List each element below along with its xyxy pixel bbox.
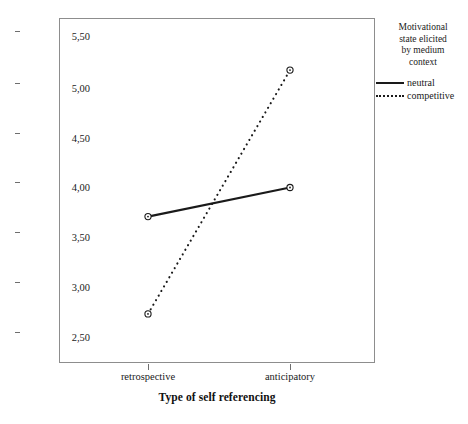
legend-item-neutral[interactable]: neutral bbox=[380, 76, 468, 89]
y-tick-label: 5,00 bbox=[20, 83, 90, 94]
y-tick-text: 3,50 bbox=[72, 232, 90, 243]
legend-label: neutral bbox=[406, 77, 435, 88]
y-tick-mark bbox=[15, 332, 20, 333]
x-axis-title: Type of self referencing bbox=[59, 391, 375, 403]
legend-label: competitive bbox=[406, 90, 454, 101]
y-tick-text: 5,50 bbox=[72, 31, 90, 42]
y-tick-mark bbox=[15, 282, 20, 283]
y-tick-label: 4,50 bbox=[20, 133, 90, 144]
y-tick-text: 3,00 bbox=[72, 282, 90, 293]
legend-line-dotted-icon bbox=[380, 91, 406, 101]
interaction-plot-figure: Estimated Marginal Means - Attitude towa… bbox=[0, 0, 468, 424]
legend: Motivational state elicited by medium co… bbox=[380, 22, 468, 102]
y-tick-label: 5,50 bbox=[20, 31, 90, 42]
y-tick-label: 4,00 bbox=[20, 182, 90, 193]
y-tick-label: 2,50 bbox=[20, 332, 90, 343]
y-tick-mark bbox=[15, 83, 20, 84]
legend-title: Motivational state elicited by medium co… bbox=[380, 22, 466, 68]
legend-entries: neutral competitive bbox=[380, 76, 468, 102]
y-tick-mark bbox=[15, 182, 20, 183]
x-tick-label-anticipatory: anticipatory bbox=[210, 371, 370, 382]
scan-artifact bbox=[24, 413, 444, 421]
plot-area bbox=[59, 18, 375, 363]
legend-title-line: Motivational bbox=[380, 22, 466, 34]
y-tick-text: 4,00 bbox=[72, 182, 90, 193]
legend-title-line: state elicited bbox=[380, 34, 466, 46]
x-tick-mark bbox=[290, 364, 291, 370]
y-tick-mark bbox=[15, 31, 20, 32]
y-tick-text: 4,50 bbox=[72, 133, 90, 144]
y-tick-mark bbox=[15, 133, 20, 134]
y-tick-label: 3,00 bbox=[20, 282, 90, 293]
x-tick-label-retrospective: retrospective bbox=[68, 371, 228, 382]
legend-line-solid-icon bbox=[380, 78, 406, 88]
legend-title-line: context bbox=[380, 57, 466, 69]
x-tick-mark bbox=[148, 364, 149, 370]
y-tick-text: 2,50 bbox=[72, 332, 90, 343]
legend-title-line: by medium bbox=[380, 45, 466, 57]
y-tick-text: 5,00 bbox=[72, 83, 90, 94]
legend-item-competitive[interactable]: competitive bbox=[380, 89, 468, 102]
y-tick-mark bbox=[15, 232, 20, 233]
y-tick-label: 3,50 bbox=[20, 232, 90, 243]
